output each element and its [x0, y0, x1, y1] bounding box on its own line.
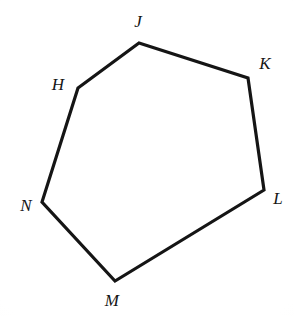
geometry-figure: H J K L M N	[0, 0, 294, 316]
vertex-label-l: L	[273, 190, 283, 207]
vertex-label-j: J	[134, 13, 142, 30]
vertex-label-k: K	[259, 55, 271, 72]
hexagon-polygon-svg	[0, 0, 294, 316]
hexagon-outline	[42, 43, 264, 281]
vertex-label-h: H	[52, 76, 64, 93]
vertex-label-n: N	[20, 197, 32, 214]
vertex-label-m: M	[105, 292, 119, 309]
